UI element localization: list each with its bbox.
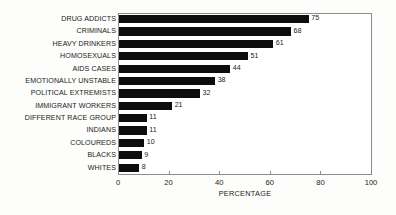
x-axis-tick-label: 100 (365, 178, 378, 188)
bar (119, 164, 139, 172)
x-axis-tick-mark (118, 171, 119, 175)
bar-value-label: 21 (175, 101, 183, 111)
bar-track: 61 (119, 38, 372, 50)
x-axis-tick-label: 80 (316, 178, 324, 188)
bar-row: BLACKS9 (0, 149, 396, 161)
bar-chart-figure: DRUG ADDICTS75CRIMINALS68HEAVY DRINKERS6… (0, 0, 396, 215)
bar-value-label: 75 (311, 14, 319, 24)
x-axis-tick-mark (320, 171, 321, 175)
category-label: HOMOSEXUALS (60, 50, 116, 62)
bar (119, 102, 172, 110)
bar-value-label: 51 (251, 52, 259, 62)
x-axis-tick-label: 0 (116, 178, 120, 188)
bar-value-label: 44 (233, 64, 241, 74)
bar-row: HOMOSEXUALS51 (0, 50, 396, 62)
x-axis-title: PERCENTAGE (118, 189, 372, 198)
bar-row: INDIANS11 (0, 124, 396, 136)
x-axis-tick-mark (270, 171, 271, 175)
category-label: CRIMINALS (76, 25, 116, 37)
bar-track: 75 (119, 13, 372, 25)
category-label: AIDS CASES (72, 63, 116, 75)
category-label: IMMIGRANT WORKERS (35, 100, 116, 112)
x-axis-tick-label: 60 (266, 178, 274, 188)
x-axis-tick-label: 40 (215, 178, 223, 188)
bar (119, 77, 215, 85)
bar (119, 52, 248, 60)
category-label: DRUG ADDICTS (61, 13, 116, 25)
bar-value-label: 10 (147, 138, 155, 148)
bar-track: 68 (119, 25, 372, 37)
bar-track: 51 (119, 50, 372, 62)
bar-value-label: 8 (142, 163, 146, 173)
bar-value-label: 68 (294, 27, 302, 37)
bar-row: HEAVY DRINKERS61 (0, 38, 396, 50)
bar-row: CRIMINALS68 (0, 25, 396, 37)
bar-row: DRUG ADDICTS75 (0, 13, 396, 25)
bar-track: 8 (119, 162, 372, 174)
category-label: INDIANS (87, 124, 116, 136)
x-axis-tick-mark (371, 171, 372, 175)
bar (119, 126, 147, 134)
bar-track: 32 (119, 87, 372, 99)
category-label: DIFFERENT RACE GROUP (25, 112, 116, 124)
bar (119, 27, 291, 35)
bar-row: IMMIGRANT WORKERS21 (0, 100, 396, 112)
category-label: HEAVY DRINKERS (53, 38, 116, 50)
bar (119, 139, 144, 147)
bar-track: 11 (119, 124, 372, 136)
x-axis-tick-mark (219, 171, 220, 175)
bar-track: 9 (119, 149, 372, 161)
bar-value-label: 9 (144, 151, 148, 161)
bar-row: POLITICAL EXTREMISTS32 (0, 87, 396, 99)
bar-rows: DRUG ADDICTS75CRIMINALS68HEAVY DRINKERS6… (0, 13, 396, 174)
bar-value-label: 11 (149, 126, 156, 136)
bar-track: 21 (119, 100, 372, 112)
bar-value-label: 32 (202, 89, 210, 99)
bar (119, 151, 142, 159)
bar-value-label: 11 (149, 113, 156, 123)
bar-track: 10 (119, 137, 372, 149)
bar-row: COLOUREDS10 (0, 137, 396, 149)
bar-row: WHITES8 (0, 162, 396, 174)
bar-row: EMOTIONALLY UNSTABLE38 (0, 75, 396, 87)
bar-value-label: 61 (276, 39, 284, 49)
x-axis-tick-label: 20 (164, 178, 172, 188)
bar-track: 11 (119, 112, 372, 124)
category-label: POLITICAL EXTREMISTS (31, 87, 116, 99)
bar (119, 89, 200, 97)
category-label: COLOUREDS (70, 137, 116, 149)
bar-row: DIFFERENT RACE GROUP11 (0, 112, 396, 124)
bar-track: 44 (119, 63, 372, 75)
category-label: BLACKS (87, 149, 116, 161)
bar (119, 15, 309, 23)
category-label: EMOTIONALLY UNSTABLE (25, 75, 116, 87)
bar-row: AIDS CASES44 (0, 63, 396, 75)
x-axis-tick-mark (169, 171, 170, 175)
bar-track: 38 (119, 75, 372, 87)
category-label: WHITES (88, 162, 116, 174)
bar-value-label: 38 (218, 76, 226, 86)
bar (119, 40, 273, 48)
bar (119, 114, 147, 122)
bar (119, 65, 230, 73)
